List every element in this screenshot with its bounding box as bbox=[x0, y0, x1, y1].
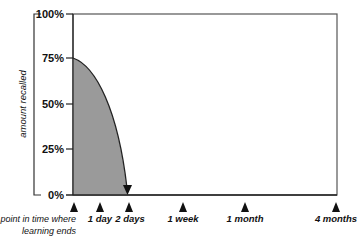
y-tick-75: 75% bbox=[42, 52, 64, 64]
x-label-1-month: 1 month bbox=[227, 213, 264, 224]
tick-marker-icon bbox=[241, 202, 249, 212]
y-axis-bracket bbox=[34, 14, 41, 195]
y-axis-label: amount recalled bbox=[17, 69, 28, 137]
tick-marker-icon bbox=[179, 202, 187, 212]
x-label-start-line1: point in time where bbox=[0, 214, 76, 224]
x-label-1-week: 1 week bbox=[167, 213, 199, 224]
y-tick-100: 100% bbox=[36, 8, 64, 20]
y-tick-0: 0% bbox=[48, 189, 64, 201]
x-label-2-days: 2 days bbox=[114, 213, 145, 224]
tick-marker-icon bbox=[332, 202, 340, 212]
forgetting-curve-chart: 100% 75% 50% 25% 0% amount recalled poin… bbox=[0, 0, 363, 239]
x-label-4-months: 4 months bbox=[314, 213, 357, 224]
x-label-1-day: 1 day bbox=[88, 213, 113, 224]
recall-area bbox=[73, 58, 127, 195]
y-tick-50: 50% bbox=[42, 98, 64, 110]
tick-marker-icon bbox=[70, 202, 78, 212]
y-tick-25: 25% bbox=[42, 143, 64, 155]
x-label-start-line2: learning ends bbox=[22, 226, 77, 236]
tick-marker-icon bbox=[96, 202, 104, 212]
tick-marker-icon bbox=[125, 202, 133, 212]
